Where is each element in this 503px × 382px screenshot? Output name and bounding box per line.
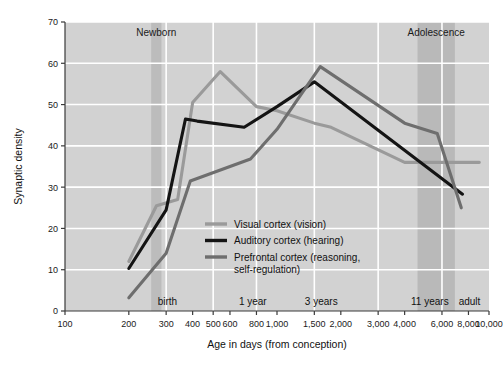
legend-label-2: Prefrontal cortex (reasoning, <box>234 252 360 263</box>
x-tick-label-1000: 1,000 <box>266 319 289 329</box>
legend-label-2-cont: self-regulation) <box>234 264 300 275</box>
y-tick-label-50: 50 <box>48 100 58 110</box>
y-tick-label-30: 30 <box>48 183 58 193</box>
x-tick-label-600: 600 <box>222 319 237 329</box>
x-tick-label-800: 800 <box>249 319 264 329</box>
legend-label-1: Auditory cortex (hearing) <box>234 235 344 246</box>
x-tick-label-500: 500 <box>206 319 221 329</box>
band-label-adolescence: Adolescence <box>408 27 466 38</box>
era-label-1-year: 1 year <box>239 296 267 307</box>
x-tick-label-100: 100 <box>57 319 72 329</box>
y-tick-label-10: 10 <box>48 265 58 275</box>
x-tick-label-200: 200 <box>121 319 136 329</box>
x-tick-label-2000: 2,000 <box>330 319 353 329</box>
chart-canvas: 0102030405060701002003004005006008001,00… <box>0 0 503 382</box>
y-axis-title: Synaptic density <box>12 128 24 205</box>
y-tick-label-70: 70 <box>48 17 58 27</box>
era-label-11-years: 11 years <box>411 296 449 307</box>
x-tick-label-4000: 4,000 <box>393 319 416 329</box>
x-tick-label-3000: 3,000 <box>367 319 390 329</box>
x-tick-label-300: 300 <box>159 319 174 329</box>
y-tick-label-40: 40 <box>48 141 58 151</box>
x-tick-label-10000: 10,000 <box>475 319 503 329</box>
era-label-birth: birth <box>158 296 177 307</box>
y-tick-label-20: 20 <box>48 224 58 234</box>
era-label-3-years: 3 years <box>305 296 338 307</box>
y-tick-label-0: 0 <box>53 306 58 316</box>
x-axis-title: Age in days (from conception) <box>207 338 346 350</box>
band-label-newborn: Newborn <box>136 27 176 38</box>
x-tick-label-1500: 1,500 <box>303 319 326 329</box>
legend-label-0: Visual cortex (vision) <box>234 219 326 230</box>
y-tick-label-60: 60 <box>48 59 58 69</box>
x-tick-label-400: 400 <box>185 319 200 329</box>
synaptic-density-chart: 0102030405060701002003004005006008001,00… <box>0 0 503 382</box>
era-label-adult: adult <box>459 296 481 307</box>
x-tick-label-6000: 6,000 <box>431 319 454 329</box>
